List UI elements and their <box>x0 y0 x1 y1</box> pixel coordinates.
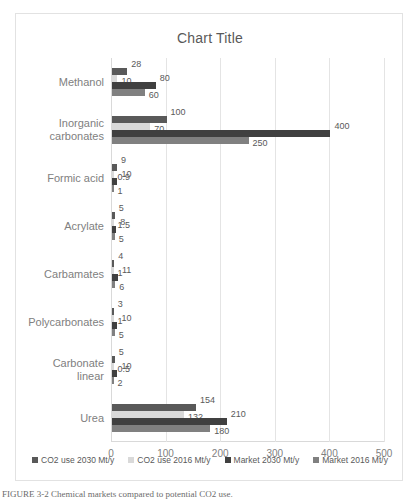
bar[interactable] <box>112 185 114 192</box>
bar[interactable] <box>112 315 114 322</box>
data-label: 154 <box>200 395 215 405</box>
legend-swatch-icon <box>32 457 38 463</box>
data-label: 4 <box>118 251 123 261</box>
bar[interactable] <box>112 171 114 178</box>
legend-item[interactable]: Market 2030 Mt/y <box>225 455 300 465</box>
data-label: 60 <box>149 90 159 100</box>
bar[interactable] <box>112 404 196 411</box>
bar[interactable] <box>112 329 115 336</box>
data-label: 28 <box>131 59 141 69</box>
bar[interactable] <box>112 322 117 329</box>
bar-group: Formic acid90.9101 <box>111 154 384 202</box>
data-label: 100 <box>171 107 186 117</box>
bar[interactable] <box>112 267 114 274</box>
bar[interactable] <box>112 363 114 370</box>
bar-group: Urea154132210180 <box>111 394 384 442</box>
bar-group: Carbamates41116 <box>111 250 384 298</box>
category-label: Urea <box>0 412 104 425</box>
gridline-500 <box>384 58 385 442</box>
data-label: 80 <box>160 73 170 83</box>
bar[interactable] <box>112 164 117 171</box>
bar[interactable] <box>112 281 115 288</box>
data-label: 9 <box>121 155 126 165</box>
data-label: 180 <box>214 426 229 436</box>
bar[interactable] <box>112 425 210 432</box>
bar[interactable] <box>112 75 117 82</box>
bar-group: Methanol28108060 <box>111 58 384 106</box>
bar[interactable] <box>112 178 117 185</box>
category-label: Inorganic carbonates <box>0 117 104 143</box>
legend-label: CO2 use 2016 Mt/y <box>137 455 210 465</box>
data-label: 2 <box>118 378 123 388</box>
bar[interactable] <box>112 219 114 226</box>
legend-label: Market 2016 Mt/y <box>322 455 388 465</box>
legend-swatch-icon <box>313 457 319 463</box>
bar[interactable] <box>112 82 156 89</box>
bar[interactable] <box>112 68 127 75</box>
data-label: 10 <box>121 313 131 323</box>
data-label: 3 <box>118 299 123 309</box>
plot-area: 0100200300400500Methanol28108060Inorgani… <box>111 58 384 442</box>
bar-group: Inorganic carbonates10070400250 <box>111 106 384 154</box>
chart-title: Chart Title <box>16 30 404 46</box>
data-label: 5 <box>119 203 124 213</box>
bar[interactable] <box>112 116 167 123</box>
bar[interactable] <box>112 233 115 240</box>
legend-item[interactable]: CO2 use 2016 Mt/y <box>128 455 210 465</box>
legend-label: CO2 use 2030 Mt/y <box>41 455 114 465</box>
category-label: Carbamates <box>0 268 104 281</box>
bar[interactable] <box>112 212 115 219</box>
bar[interactable] <box>112 89 145 96</box>
category-label: Carbonate linear <box>0 357 104 383</box>
bar[interactable] <box>112 411 184 418</box>
bar[interactable] <box>112 274 118 281</box>
legend-item[interactable]: Market 2016 Mt/y <box>313 455 388 465</box>
bar[interactable] <box>112 377 114 384</box>
legend-item[interactable]: CO2 use 2030 Mt/y <box>32 455 114 465</box>
bar[interactable] <box>112 130 330 137</box>
data-label: 250 <box>253 138 268 148</box>
bar-group: Polycarbonates31105 <box>111 298 384 346</box>
legend-swatch-icon <box>128 457 134 463</box>
bar[interactable] <box>112 370 117 377</box>
bar[interactable] <box>112 356 115 363</box>
data-label: 10 <box>121 169 131 179</box>
data-label: 5 <box>119 347 124 357</box>
data-label: 10 <box>121 361 131 371</box>
data-label: 5 <box>119 330 124 340</box>
data-label: 210 <box>231 409 246 419</box>
category-label: Methanol <box>0 76 104 89</box>
legend-swatch-icon <box>225 457 231 463</box>
bar[interactable] <box>112 418 227 425</box>
chart-legend: CO2 use 2030 Mt/yCO2 use 2016 Mt/yMarket… <box>16 455 404 465</box>
bar[interactable] <box>112 226 116 233</box>
data-label: 5 <box>119 234 124 244</box>
data-label: 11 <box>122 265 131 275</box>
data-label: 8 <box>120 217 125 227</box>
bar[interactable] <box>112 123 150 130</box>
figure-container: Chart Title 0100200300400500Methanol2810… <box>0 0 418 501</box>
category-label: Acrylate <box>0 220 104 233</box>
bar[interactable] <box>112 260 114 267</box>
bar[interactable] <box>112 137 249 144</box>
data-label: 1 <box>118 186 123 196</box>
legend-label: Market 2030 Mt/y <box>234 455 300 465</box>
data-label: 6 <box>119 282 124 292</box>
bar-group: Carbonate linear50.5102 <box>111 346 384 394</box>
bar[interactable] <box>112 308 114 315</box>
category-label: Polycarbonates <box>0 316 104 329</box>
chart-frame: Chart Title 0100200300400500Methanol2810… <box>15 13 403 481</box>
figure-caption: FIGURE 3-2 Chemical markets compared to … <box>2 489 416 499</box>
category-label: Formic acid <box>0 172 104 185</box>
bar-group: Acrylate51.585 <box>111 202 384 250</box>
data-label: 400 <box>334 121 349 131</box>
